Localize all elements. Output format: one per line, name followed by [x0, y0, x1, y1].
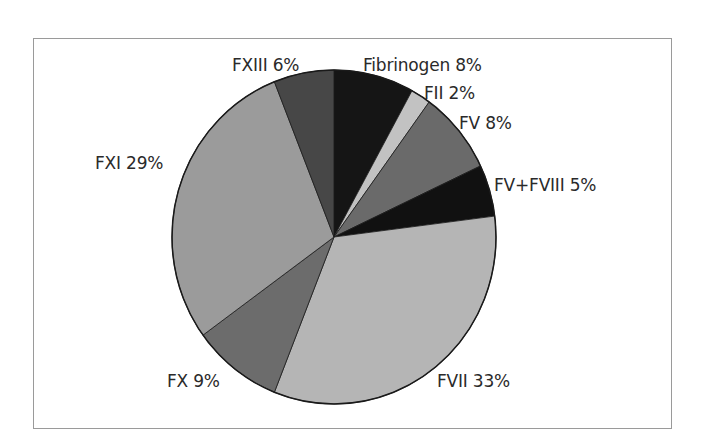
label-fv-fviii: FV+FVIII 5%	[494, 177, 596, 194]
label-fibrinogen: Fibrinogen 8%	[363, 57, 482, 74]
pie-chart	[0, 0, 706, 447]
label-fx: FX 9%	[167, 373, 220, 390]
label-fxiii: FXIII 6%	[232, 57, 299, 74]
label-fxi: FXI 29%	[95, 155, 163, 172]
label-fvii: FVII 33%	[437, 373, 510, 390]
label-fii: FII 2%	[424, 85, 475, 102]
pie-slices	[172, 70, 496, 404]
label-fv: FV 8%	[459, 115, 512, 132]
